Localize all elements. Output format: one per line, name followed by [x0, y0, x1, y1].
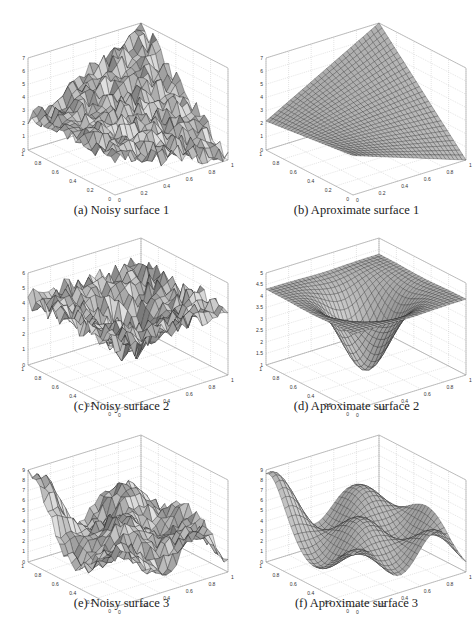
svg-text:4: 4	[22, 94, 25, 100]
svg-text:0.6: 0.6	[186, 588, 193, 594]
surface-plot-b: 01234567000.20.20.40.40.60.60.80.811	[238, 0, 475, 205]
svg-text:2: 2	[260, 120, 263, 126]
svg-text:0.8: 0.8	[34, 572, 41, 578]
svg-text:6: 6	[22, 497, 25, 503]
svg-text:0.8: 0.8	[208, 169, 215, 175]
surface-plot-d: 11.522.533.544.55000.20.20.40.40.60.60.8…	[238, 215, 475, 420]
svg-text:1: 1	[22, 346, 25, 352]
svg-text:1: 1	[231, 377, 234, 383]
svg-text:1: 1	[469, 162, 472, 168]
svg-text:7: 7	[22, 487, 25, 493]
surface-plot-c: 0123456000.20.20.40.40.60.60.80.811	[0, 215, 237, 420]
surface-plot-f: 0123456789000.20.20.40.40.60.60.80.811	[238, 412, 475, 617]
svg-text:1: 1	[21, 366, 24, 372]
svg-text:6: 6	[260, 497, 263, 503]
surface-mesh	[28, 470, 228, 575]
svg-text:1: 1	[259, 563, 262, 569]
svg-text:0.8: 0.8	[208, 384, 215, 390]
svg-text:0: 0	[108, 196, 111, 202]
panel-f: 0123456789000.20.20.40.40.60.60.80.811	[238, 412, 475, 617]
svg-text:7: 7	[22, 55, 25, 61]
svg-text:0.2: 0.2	[325, 187, 332, 193]
svg-text:1.5: 1.5	[256, 350, 263, 356]
svg-text:2: 2	[260, 339, 263, 345]
svg-text:7: 7	[260, 487, 263, 493]
svg-text:0.6: 0.6	[52, 581, 59, 587]
svg-text:0.2: 0.2	[87, 187, 94, 193]
surface-mesh	[266, 254, 466, 370]
svg-text:0: 0	[346, 196, 349, 202]
svg-text:8: 8	[260, 477, 263, 483]
svg-text:0.8: 0.8	[34, 375, 41, 381]
svg-text:0.6: 0.6	[52, 384, 59, 390]
surface-mesh	[28, 258, 228, 361]
svg-text:0.6: 0.6	[186, 176, 193, 182]
svg-text:7: 7	[260, 55, 263, 61]
svg-text:2: 2	[22, 538, 25, 544]
svg-text:0.6: 0.6	[186, 391, 193, 397]
svg-text:1: 1	[260, 133, 263, 139]
svg-text:3: 3	[260, 316, 263, 322]
svg-text:1: 1	[21, 563, 24, 569]
svg-text:2.5: 2.5	[256, 327, 263, 333]
svg-text:1: 1	[469, 574, 472, 580]
svg-text:8: 8	[22, 477, 25, 483]
panel-a: 01234567000.20.20.40.40.60.60.80.811	[0, 0, 237, 205]
svg-text:1: 1	[259, 151, 262, 157]
svg-text:9: 9	[22, 467, 25, 473]
surface-mesh	[28, 23, 228, 166]
svg-text:0.4: 0.4	[163, 183, 170, 189]
svg-text:0.6: 0.6	[290, 384, 297, 390]
svg-text:0.8: 0.8	[272, 160, 279, 166]
svg-text:4: 4	[22, 300, 25, 306]
svg-text:3: 3	[260, 528, 263, 534]
surface-plot-e: 0123456789000.20.20.40.40.60.60.80.811	[0, 412, 237, 617]
svg-text:0.6: 0.6	[290, 169, 297, 175]
svg-text:0.8: 0.8	[446, 169, 453, 175]
svg-text:4: 4	[260, 293, 263, 299]
svg-text:2: 2	[22, 120, 25, 126]
panel-c: 0123456000.20.20.40.40.60.60.80.811	[0, 215, 237, 420]
svg-text:4: 4	[22, 518, 25, 524]
svg-text:2: 2	[22, 331, 25, 337]
svg-text:0.2: 0.2	[379, 190, 386, 196]
svg-text:0.8: 0.8	[446, 384, 453, 390]
svg-text:0.4: 0.4	[69, 178, 76, 184]
svg-text:0.8: 0.8	[272, 375, 279, 381]
svg-text:5: 5	[260, 507, 263, 513]
svg-text:0.6: 0.6	[52, 169, 59, 175]
svg-text:6: 6	[22, 270, 25, 276]
svg-text:0.8: 0.8	[34, 160, 41, 166]
surface-mesh	[266, 23, 466, 160]
svg-text:0.8: 0.8	[208, 581, 215, 587]
svg-text:0.8: 0.8	[272, 572, 279, 578]
svg-text:0.4: 0.4	[307, 178, 314, 184]
svg-text:9: 9	[260, 467, 263, 473]
svg-text:2: 2	[260, 538, 263, 544]
svg-text:5: 5	[22, 507, 25, 513]
svg-text:0.2: 0.2	[141, 190, 148, 196]
svg-text:0.6: 0.6	[424, 391, 431, 397]
svg-text:1: 1	[469, 377, 472, 383]
svg-text:1: 1	[231, 162, 234, 168]
panel-d: 11.522.533.544.55000.20.20.40.40.60.60.8…	[238, 215, 475, 420]
panel-e: 0123456789000.20.20.40.40.60.60.80.811	[0, 412, 237, 617]
svg-text:0.8: 0.8	[446, 581, 453, 587]
svg-text:1: 1	[231, 574, 234, 580]
svg-text:0.6: 0.6	[290, 581, 297, 587]
svg-text:0.4: 0.4	[401, 183, 408, 189]
svg-text:4.5: 4.5	[256, 281, 263, 287]
svg-text:1: 1	[259, 366, 262, 372]
svg-text:3: 3	[260, 107, 263, 113]
svg-text:4: 4	[260, 94, 263, 100]
svg-text:1: 1	[21, 151, 24, 157]
panel-b: 01234567000.20.20.40.40.60.60.80.811	[238, 0, 475, 205]
svg-text:5: 5	[22, 81, 25, 87]
svg-text:5: 5	[22, 285, 25, 291]
svg-text:1: 1	[260, 548, 263, 554]
svg-text:6: 6	[260, 68, 263, 74]
svg-text:0.6: 0.6	[424, 588, 431, 594]
svg-text:1: 1	[22, 548, 25, 554]
svg-text:6: 6	[22, 68, 25, 74]
svg-text:4: 4	[260, 518, 263, 524]
